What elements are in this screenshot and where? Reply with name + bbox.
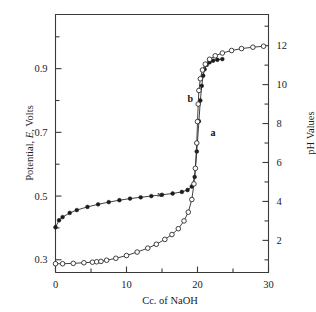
- data-point-b: [149, 194, 153, 198]
- data-point-b: [186, 188, 190, 192]
- data-point-a: [220, 51, 225, 56]
- data-point-a: [196, 102, 201, 107]
- data-point-a: [182, 219, 187, 224]
- data-point-a: [170, 232, 175, 237]
- y2-tick-label: 10: [277, 79, 288, 90]
- data-point-b: [61, 215, 65, 219]
- annotation-a: a: [211, 127, 216, 138]
- data-point-a: [192, 182, 197, 187]
- x-tick-label: 10: [121, 279, 132, 290]
- y-axis-title-text: Potential, E, Volts: [24, 105, 35, 180]
- data-point-a: [176, 226, 181, 231]
- y2-tick-label: 8: [277, 118, 282, 129]
- data-point-a: [114, 256, 119, 261]
- data-point-a: [186, 210, 191, 215]
- plot-frame: [56, 15, 269, 273]
- y-axis-title: Potential, E, Volts: [19, 63, 37, 223]
- data-point-a: [60, 261, 65, 266]
- y2-tick-label: 4: [277, 196, 283, 207]
- data-point-a: [200, 68, 205, 73]
- y-tick-label: 0.3: [34, 254, 47, 265]
- data-point-a: [99, 259, 104, 264]
- data-point-b: [220, 57, 224, 61]
- data-point-b: [128, 197, 132, 201]
- data-point-a: [82, 260, 87, 265]
- data-point-a: [193, 166, 198, 171]
- data-point-a: [154, 242, 159, 247]
- data-point-a: [190, 197, 195, 202]
- data-point-b: [171, 192, 175, 196]
- data-point-a: [194, 141, 199, 146]
- data-point-b: [139, 195, 143, 199]
- data-point-a: [71, 261, 76, 266]
- data-point-b: [68, 211, 72, 215]
- data-point-a: [146, 246, 151, 251]
- data-point-a: [198, 76, 203, 81]
- data-point-a: [213, 53, 218, 58]
- data-point-b: [75, 208, 79, 212]
- data-point-b: [96, 202, 100, 206]
- data-point-a: [53, 261, 58, 266]
- data-point-a: [261, 44, 266, 49]
- data-point-a: [195, 119, 200, 124]
- data-point-b: [118, 198, 122, 202]
- annotation-b: b: [188, 93, 194, 104]
- y2-axis-title-text: pH Values: [305, 111, 316, 154]
- data-point-a: [197, 88, 202, 93]
- y2-tick-label: 2: [277, 235, 282, 246]
- data-point-a: [251, 45, 256, 50]
- curve-a: [56, 46, 264, 263]
- data-point-a: [163, 237, 168, 242]
- data-point-b: [180, 190, 184, 194]
- data-point-b: [86, 205, 90, 209]
- titration-plot: 0.30.50.70.9246810120102030bax: [0, 0, 316, 312]
- data-point-a: [203, 62, 208, 67]
- y2-tick-label: 6: [277, 157, 282, 168]
- x-tick-label: 0: [53, 279, 58, 290]
- data-point-b: [107, 200, 111, 204]
- y2-tick-label: 12: [277, 40, 288, 51]
- x-tick-label: 20: [192, 279, 203, 290]
- y2-axis-title: pH Values: [300, 73, 316, 193]
- data-point-a: [229, 48, 234, 53]
- data-point-b: [54, 225, 58, 229]
- data-point-a: [135, 250, 140, 255]
- x-axis-title-text: Cc. of NaOH: [142, 295, 198, 306]
- x-axis-title: Cc. of NaOH: [60, 290, 280, 308]
- data-point-b: [57, 218, 61, 222]
- data-point-b: [200, 84, 204, 88]
- annotation-x: x: [157, 189, 162, 199]
- x-tick-label: 30: [263, 279, 274, 290]
- data-point-a: [239, 46, 244, 51]
- data-point-a: [124, 253, 129, 258]
- data-point-a: [207, 57, 212, 62]
- data-point-a: [104, 258, 109, 263]
- chart-figure: 0.30.50.70.9246810120102030bax Potential…: [0, 0, 316, 312]
